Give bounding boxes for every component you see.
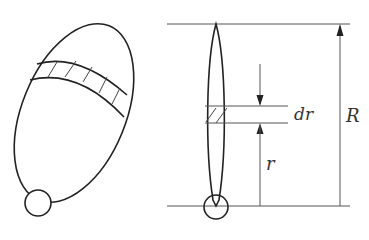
left-hub-circle (25, 190, 51, 216)
band-lower-curve (30, 78, 124, 117)
left-disk-figure (0, 6, 157, 219)
R-arrow-head (337, 24, 344, 36)
tilted-disk-ellipse (0, 6, 157, 219)
diagram-svg: dr R r (0, 0, 369, 240)
diagram-canvas: dr R r (0, 0, 369, 240)
label-dr: dr (294, 104, 314, 124)
label-R: R (345, 105, 360, 126)
label-r: r (266, 153, 276, 174)
dr-arrow-top-head (257, 95, 264, 106)
right-disk-figure: dr R r (167, 24, 360, 219)
